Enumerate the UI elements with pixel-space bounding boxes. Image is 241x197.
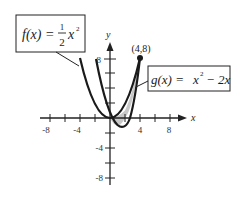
y-axis-arrow-icon (107, 42, 114, 51)
f-label-lhs: f(x) = (22, 27, 54, 43)
y-tick-label: -4 (96, 143, 104, 153)
g-label-tail: − 2x (206, 72, 231, 87)
g-label-lhs: g(x) = (151, 72, 184, 87)
f-frac-num: 1 (60, 22, 65, 32)
label-f: f(x) = 1 2 x 2 (16, 15, 85, 66)
g-label-x: x (192, 72, 199, 87)
svg-text:f(x) =: f(x) = (22, 27, 54, 43)
intersection-point (137, 55, 143, 61)
x-tick-label: -8 (42, 125, 50, 135)
f-frac-den: 2 (59, 36, 65, 48)
g-label-exp: 2 (200, 70, 204, 78)
x-tick-label: -4 (73, 125, 81, 135)
y-axis-label: y (105, 29, 111, 40)
f-label-x: x (67, 27, 75, 42)
function-graph: x -8 -4 4 8 y 8 -4 -8 (4,8) (0, 0, 241, 197)
y-tick-label: -8 (96, 173, 104, 183)
x-tick-label: 8 (167, 125, 172, 135)
x-axis-arrow-icon (178, 115, 187, 122)
x-tick-label: 4 (138, 125, 143, 135)
label-g: g(x) = x 2 − 2x (136, 66, 231, 91)
x-axis-label: x (190, 112, 196, 123)
point-label: (4,8) (131, 43, 150, 55)
f-label-exp: 2 (76, 25, 80, 33)
